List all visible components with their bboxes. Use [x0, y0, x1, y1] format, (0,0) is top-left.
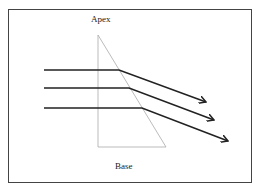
- light-ray-3: [44, 108, 228, 141]
- prism-triangle: [98, 35, 166, 147]
- base-label: Base: [115, 161, 133, 171]
- light-ray-1: [44, 70, 206, 102]
- apex-label: Apex: [91, 14, 111, 24]
- light-ray-2: [44, 88, 214, 120]
